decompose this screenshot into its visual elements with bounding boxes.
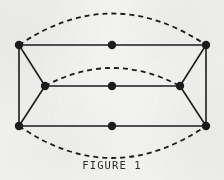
top-middle-vertex xyxy=(108,41,116,49)
bottom-right-vertex xyxy=(202,122,210,130)
edge-bottom-left-to-center xyxy=(19,86,45,126)
bottom-left-vertex xyxy=(15,122,23,130)
outer-lower-arc xyxy=(19,126,206,158)
figure-caption: FIGURE 1 xyxy=(0,159,224,171)
figure-page: FIGURE 1 xyxy=(0,0,224,180)
top-left-vertex xyxy=(15,41,23,49)
graph-diagram xyxy=(0,0,224,180)
center-right-vertex xyxy=(176,82,184,90)
vertices-layer xyxy=(15,41,210,130)
center-left-vertex xyxy=(41,82,49,90)
outer-upper-arc xyxy=(19,14,206,46)
bottom-middle-vertex xyxy=(108,122,116,130)
center-middle-vertex xyxy=(108,82,116,90)
edge-top-right-to-center xyxy=(180,45,206,86)
edge-bottom-right-to-center xyxy=(180,86,206,126)
edge-top-left-to-center xyxy=(19,45,45,86)
top-right-vertex xyxy=(202,41,210,49)
